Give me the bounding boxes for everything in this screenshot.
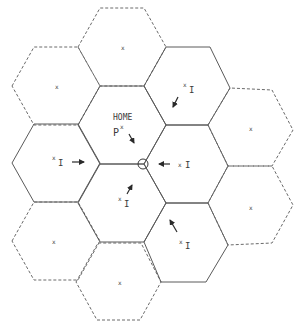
marker-c0-0: x [55, 83, 59, 90]
home-label: HOME [113, 113, 132, 122]
interferer-I-c2-2: I [185, 241, 190, 251]
interferer-I-c0-1: I [58, 158, 63, 168]
cell-c1-2 [78, 164, 166, 242]
marker-c0-2: x [52, 238, 56, 245]
arrow-up-right-icon [127, 185, 132, 194]
home-p-marker: x [120, 123, 124, 130]
home-arrow-icon [129, 134, 134, 143]
interferer-x-c1-2: x [118, 195, 122, 202]
interferer-x-c2-0: x [183, 81, 187, 88]
hex-grid [12, 8, 293, 320]
arrow-up-left-icon [170, 220, 177, 232]
marker-c1-3: x [118, 279, 122, 286]
hex-cell-diagram: x x x x x x HOME P x x I x I x I x I x I [0, 0, 294, 325]
home-p-label: P [113, 127, 119, 138]
interferer-I-c1-2: I [124, 199, 129, 209]
interferer-labels: x I x I x I x I x I [52, 81, 194, 251]
arrow-down-left-icon [173, 97, 178, 107]
interferer-I-c2-1: I [185, 160, 190, 170]
home-cell-labels: HOME P x [113, 113, 134, 143]
interferer-x-c0-1: x [52, 154, 56, 161]
marker-c3-0: x [249, 125, 253, 132]
marker-c1-0: x [121, 44, 125, 51]
marker-c3-1: x [249, 204, 253, 211]
cell-markers: x x x x x x [52, 44, 253, 286]
cell-c2-0 [144, 47, 230, 125]
interferer-x-c2-1: x [178, 161, 182, 168]
cell-c0-1 [12, 124, 100, 202]
interferer-x-c2-2: x [179, 238, 183, 245]
interferer-I-c2-0: I [189, 85, 194, 95]
cell-c0-2 [12, 202, 100, 280]
